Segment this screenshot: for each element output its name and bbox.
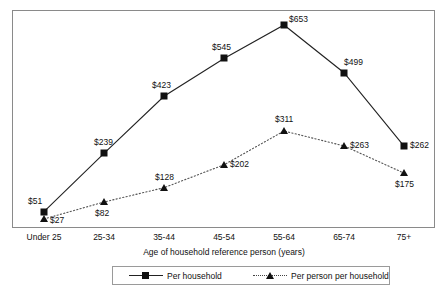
data-point-marker <box>340 142 348 149</box>
x-axis-tick-55-64: 55-64 <box>273 232 295 243</box>
data-point-label: $311 <box>275 114 293 124</box>
data-point-label: $27 <box>50 215 64 225</box>
data-point-label: $499 <box>344 57 363 67</box>
x-axis-tick-under-25: Under 25 <box>27 232 62 243</box>
x-axis-tick-65-74: 65-74 <box>333 232 355 243</box>
legend-item-per-person-per-household: Per person per household <box>253 267 389 284</box>
data-point-marker <box>160 184 168 191</box>
x-axis-tick-25-34: 25-34 <box>93 232 115 243</box>
chart-legend: Per household Per person per household <box>112 266 390 285</box>
x-axis-tick-35-44: 35-44 <box>153 232 175 243</box>
legend-item-per-household: Per household <box>129 267 222 284</box>
legend-label-per-household: Per household <box>167 271 222 281</box>
data-point-marker <box>400 169 408 176</box>
data-point-marker <box>100 198 108 205</box>
x-axis-title: Age of household reference person (years… <box>0 247 448 257</box>
data-point-marker <box>341 69 348 76</box>
data-point-marker <box>221 55 228 62</box>
data-point-marker <box>41 208 48 215</box>
x-axis-tick-75-: 75+ <box>397 232 411 243</box>
data-point-label: $51 <box>28 196 42 206</box>
legend-label-per-person-per-household: Per person per household <box>291 271 389 281</box>
data-point-marker <box>220 161 228 168</box>
data-point-marker <box>40 215 48 222</box>
chart-container: $51$239$423$545$653$499$262$27$82$128$20… <box>0 0 448 296</box>
x-axis-tick-45-54: 45-54 <box>213 232 235 243</box>
data-point-marker <box>281 22 288 29</box>
data-point-marker <box>280 127 288 134</box>
data-point-label: $262 <box>410 140 429 150</box>
data-point-marker <box>101 150 108 157</box>
data-point-label: $82 <box>95 208 109 218</box>
legend-triangle-marker-icon <box>253 270 287 281</box>
legend-square-marker-icon <box>129 270 163 281</box>
data-point-label: $239 <box>94 137 113 147</box>
data-point-label: $263 <box>350 140 369 150</box>
data-point-marker <box>161 93 168 100</box>
data-point-label: $545 <box>212 42 231 52</box>
data-point-label: $653 <box>289 14 308 24</box>
data-point-label: $128 <box>155 172 174 182</box>
data-point-label: $423 <box>152 80 171 90</box>
data-point-marker <box>401 143 408 150</box>
data-point-label: $202 <box>230 159 249 169</box>
data-point-label: $175 <box>395 179 414 189</box>
